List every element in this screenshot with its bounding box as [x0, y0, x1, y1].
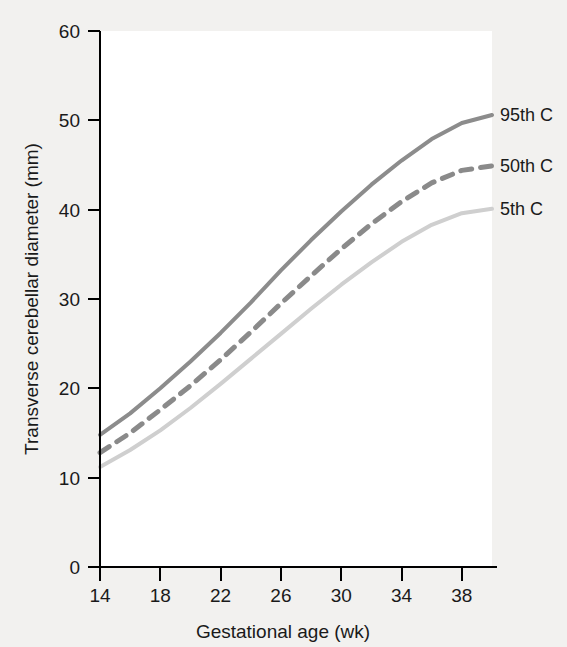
y-tick-label-50: 50: [59, 110, 80, 131]
y-axis-ticks: [88, 31, 100, 567]
y-tick-label-30: 30: [59, 289, 80, 310]
y-axis-tick-labels: 0102030405060: [59, 21, 80, 578]
series-label-95th-c: 95th C: [500, 105, 553, 125]
x-axis-tick-labels: 14182226303438: [89, 585, 472, 606]
x-tick-label-30: 30: [331, 585, 352, 606]
x-axis-title: Gestational age (wk): [196, 621, 370, 642]
y-tick-label-60: 60: [59, 21, 80, 42]
transverse-cerebellar-diameter-chart: 0102030405060 14182226303438 95th C50th …: [0, 0, 567, 647]
y-tick-label-10: 10: [59, 468, 80, 489]
x-tick-label-26: 26: [270, 585, 291, 606]
y-tick-label-20: 20: [59, 378, 80, 399]
y-tick-label-40: 40: [59, 200, 80, 221]
series-end-labels: 95th C50th C5th C: [500, 105, 553, 219]
x-tick-label-18: 18: [150, 585, 171, 606]
series-label-5th-c: 5th C: [500, 199, 543, 219]
x-tick-label-38: 38: [451, 585, 472, 606]
chart-figure: 0102030405060 14182226303438 95th C50th …: [0, 0, 567, 647]
plot-area-background: [100, 31, 492, 567]
y-axis-title: Transverse cerebellar diameter (mm): [21, 143, 42, 455]
x-tick-label-22: 22: [210, 585, 231, 606]
x-axis-ticks: [100, 567, 462, 581]
x-tick-label-14: 14: [89, 585, 111, 606]
y-tick-label-0: 0: [69, 557, 80, 578]
x-tick-label-34: 34: [391, 585, 413, 606]
series-label-50th-c: 50th C: [500, 156, 553, 176]
